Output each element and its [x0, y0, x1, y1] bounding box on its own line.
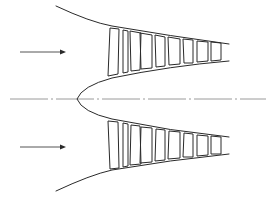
blade: [197, 135, 208, 156]
blade: [211, 136, 221, 154]
blade: [183, 39, 193, 63]
blade: [155, 129, 165, 161]
blade: [155, 35, 165, 67]
blade: [197, 41, 208, 62]
blade: [130, 31, 141, 71]
flow-arrow-lower: [20, 145, 66, 150]
blade: [183, 133, 193, 157]
blade: [168, 131, 180, 159]
blade: [123, 30, 128, 73]
flow-arrow-upper: [20, 50, 66, 55]
blade: [108, 121, 119, 169]
arrowhead-icon: [60, 50, 66, 55]
blade: [168, 37, 180, 65]
arrowhead-icon: [60, 145, 66, 150]
outer-casing-bottom: [56, 154, 229, 191]
outer-casing-top: [56, 6, 229, 44]
blade: [130, 125, 141, 165]
blade: [140, 33, 152, 69]
blade: [140, 127, 152, 163]
blade: [123, 123, 128, 167]
turbomachine-diagram: [0, 0, 270, 204]
blade: [108, 28, 119, 76]
blade: [211, 42, 221, 61]
